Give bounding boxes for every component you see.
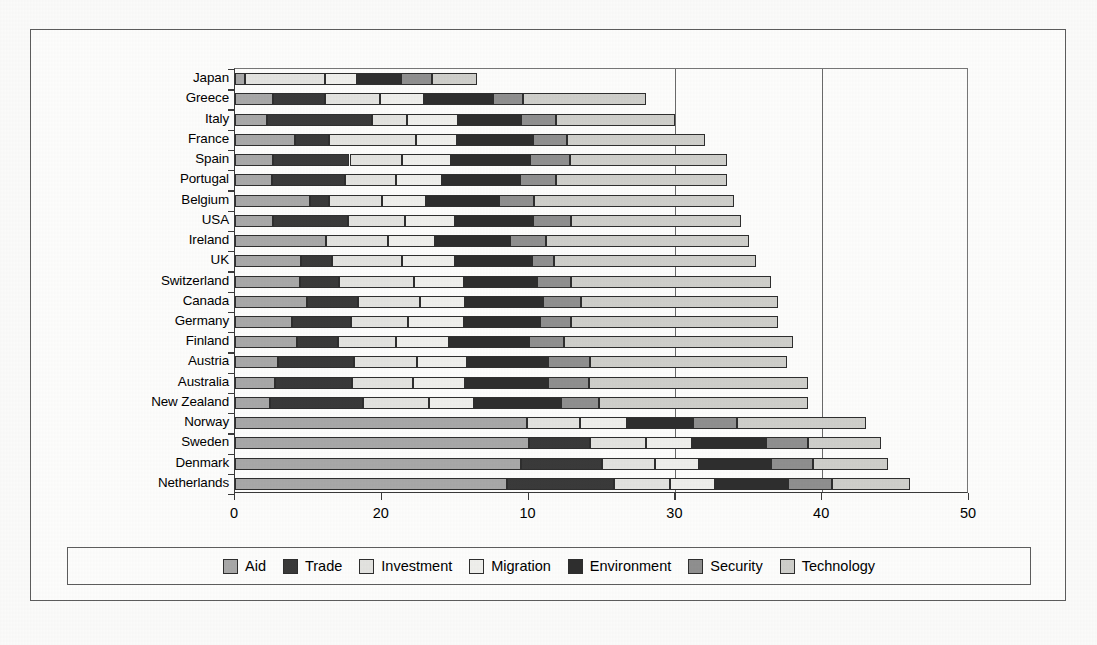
bar-segment <box>510 235 547 247</box>
y-axis-tick <box>228 271 235 272</box>
legend-label: Investment <box>381 558 452 574</box>
y-axis-tick <box>228 413 235 414</box>
bar-segment <box>235 235 326 247</box>
page-background: JapanGreeceItalyFranceSpainPortugalBelgi… <box>0 0 1097 645</box>
y-axis-tick <box>228 433 235 434</box>
y-axis-label-japan: Japan <box>193 71 229 85</box>
y-axis-label-usa: USA <box>202 213 229 227</box>
y-axis-label-ireland: Ireland <box>189 233 229 247</box>
bar-segment <box>737 417 866 429</box>
legend-item-migration[interactable]: Migration <box>469 558 551 574</box>
y-axis-category-labels: JapanGreeceItalyFranceSpainPortugalBelgi… <box>119 68 229 493</box>
bar-segment <box>326 235 388 247</box>
bar-segment <box>699 458 771 470</box>
x-axis-tick <box>234 493 235 500</box>
bar-segment <box>808 437 881 449</box>
y-axis-label-denmark: Denmark <box>175 456 229 470</box>
y-axis-label-france: France <box>188 132 229 146</box>
bar-segment <box>235 174 272 186</box>
bar-segment <box>614 478 670 490</box>
bar-segment <box>235 73 245 85</box>
bar-segment <box>546 235 749 247</box>
bar-segment <box>464 276 537 288</box>
legend-swatch-icon <box>359 559 374 574</box>
bar-segment <box>235 336 297 348</box>
bar-segment <box>529 437 591 449</box>
bar-segment <box>352 377 412 389</box>
legend-swatch-icon <box>283 559 298 574</box>
legend-item-environment[interactable]: Environment <box>568 558 671 574</box>
bar-segment <box>307 296 358 308</box>
bar-segment <box>543 296 581 308</box>
bar-segment <box>329 195 382 207</box>
legend-swatch-icon <box>688 559 703 574</box>
bar-segment <box>235 417 527 429</box>
bar-segment <box>766 437 807 449</box>
bar-segment <box>527 417 580 429</box>
bar-segment <box>413 377 466 389</box>
bar-segment <box>561 397 599 409</box>
bar-segment <box>338 336 397 348</box>
y-axis-tick <box>228 312 235 313</box>
bar-segment <box>417 356 467 368</box>
bar-segment <box>429 397 475 409</box>
bar-segment <box>465 377 547 389</box>
bar-segment <box>602 458 655 470</box>
bar-segment <box>351 316 408 328</box>
bar-segment <box>278 356 354 368</box>
bar-segment <box>295 134 329 146</box>
y-axis-label-austria: Austria <box>188 354 229 368</box>
legend-item-aid[interactable]: Aid <box>223 558 266 574</box>
bar-segment <box>416 134 457 146</box>
x-axis-tick-label: 10 <box>508 505 548 521</box>
bar-segment <box>567 134 705 146</box>
bar-segment <box>388 235 435 247</box>
bar-segment <box>530 154 570 166</box>
legend-item-technology[interactable]: Technology <box>780 558 875 574</box>
bar-segment <box>235 316 292 328</box>
bar-segment <box>571 276 771 288</box>
bar-segment <box>332 255 402 267</box>
bar-segment <box>339 276 414 288</box>
bar-segment <box>402 154 450 166</box>
legend-item-trade[interactable]: Trade <box>283 558 342 574</box>
bar-segment <box>548 356 591 368</box>
bar-segment <box>521 114 556 126</box>
legend-swatch-icon <box>469 559 484 574</box>
legend-label: Aid <box>245 558 266 574</box>
bar-segment <box>301 255 332 267</box>
y-axis-label-netherlands: Netherlands <box>158 476 229 490</box>
bar-segment <box>670 478 716 490</box>
legend-item-investment[interactable]: Investment <box>359 558 452 574</box>
bar-segment <box>590 437 646 449</box>
bar-segment <box>590 356 787 368</box>
bar-segment <box>533 134 567 146</box>
y-axis-tick <box>228 89 235 90</box>
x-axis-tick <box>528 493 529 500</box>
y-axis-label-switzerland: Switzerland <box>161 274 229 288</box>
bar-segment <box>372 114 407 126</box>
bar-segment <box>771 458 814 470</box>
y-axis-tick <box>228 251 235 252</box>
y-axis-label-new-zealand: New Zealand <box>151 395 229 409</box>
bar-segment <box>235 478 507 490</box>
bar-segment <box>564 336 793 348</box>
x-axis-tick-label: 30 <box>654 505 694 521</box>
bar-segment <box>426 195 499 207</box>
bar-segment <box>267 114 371 126</box>
bar-segment <box>507 478 614 490</box>
bar-segment <box>599 397 807 409</box>
bar-segment <box>474 397 561 409</box>
bar-segment <box>363 397 429 409</box>
bar-segment <box>273 154 349 166</box>
bar-segment <box>235 195 310 207</box>
bar-segment <box>580 417 627 429</box>
bar-segment <box>235 437 529 449</box>
bar-segment <box>310 195 329 207</box>
bar-segment <box>534 195 734 207</box>
bar-segment <box>556 114 675 126</box>
y-axis-label-spain: Spain <box>195 152 229 166</box>
y-axis-label-norway: Norway <box>184 415 229 429</box>
bar-segment <box>401 73 432 85</box>
legend-item-security[interactable]: Security <box>688 558 762 574</box>
